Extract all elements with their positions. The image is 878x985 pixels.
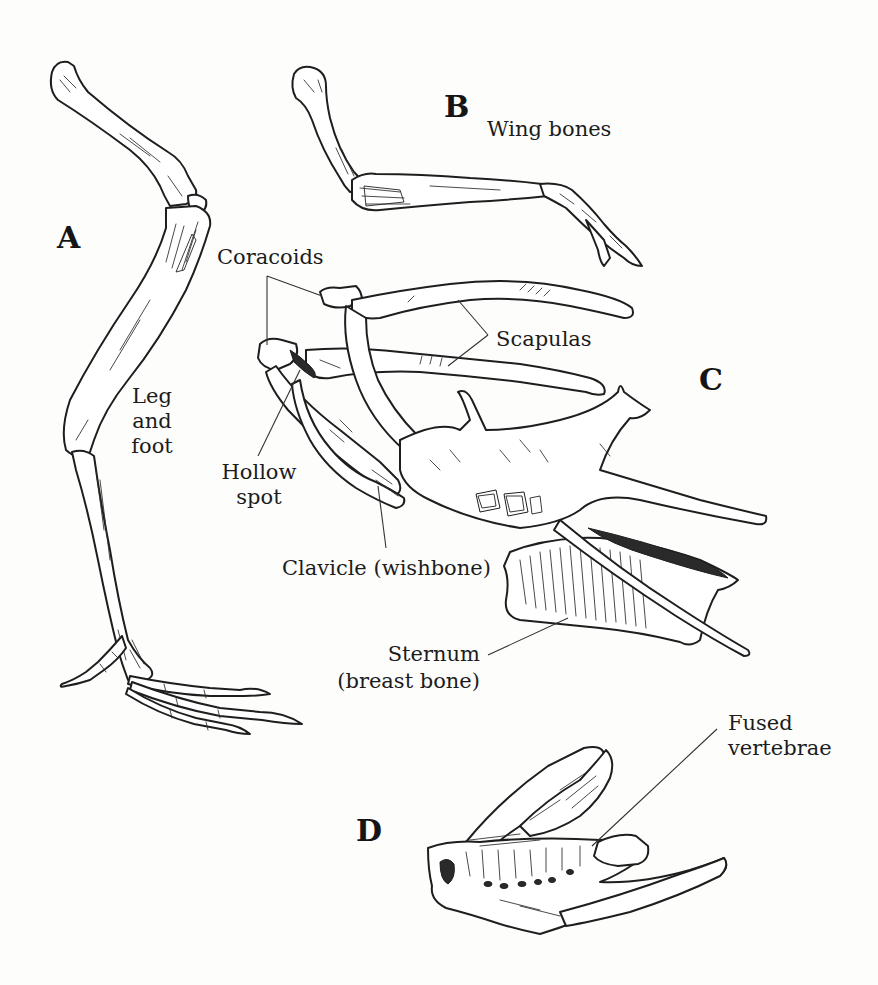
label-wing-bones: Wing bones: [487, 117, 611, 141]
sternum-leader: [488, 618, 568, 655]
label-sternum: Sternum (breast bone): [330, 641, 480, 695]
panel-letter-c: C: [699, 364, 723, 396]
label-hollow-spot: Hollow spot: [214, 460, 304, 510]
bone-illustrations: [0, 0, 878, 985]
bird-skeleton-diagram: A B C D Leg and foot Wing bones Coracoid…: [0, 0, 878, 985]
panel-letter-d: D: [356, 815, 382, 847]
fused-vertebrae-drawing: [428, 747, 726, 934]
label-scapulas: Scapulas: [496, 327, 592, 351]
fused-vertebrae-leader: [592, 729, 717, 846]
panel-letter-b: B: [444, 91, 469, 123]
label-fused-vertebrae: Fused vertebrae: [728, 711, 832, 761]
coracoids-leader: [267, 276, 322, 345]
label-coracoids: Coracoids: [217, 245, 324, 269]
panel-letter-a: A: [57, 222, 80, 254]
scapulas-leader: [448, 300, 488, 366]
label-clavicle: Clavicle (wishbone): [282, 556, 491, 580]
label-leg-and-foot: Leg and foot: [120, 384, 184, 459]
